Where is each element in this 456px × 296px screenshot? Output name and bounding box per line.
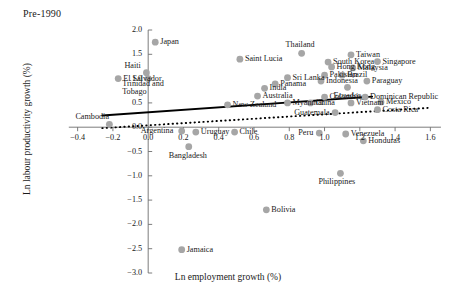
point-label: New Zealand [233,101,277,109]
point-label: Peru [298,129,313,137]
x-tick-label: 1.6 [416,133,444,142]
point-label: China [315,99,335,107]
point-label: Cambodia [75,113,109,121]
y-tick-label: −3.0 [114,268,142,277]
x-tick-label: 0.2 [169,133,197,142]
point-label: Chile [240,128,258,136]
y-tick-label: 1.5 [114,49,142,58]
point-label: Indonesia [326,77,358,85]
point-label: Japan [160,38,179,46]
point-label: Bolivia [271,206,295,214]
point-label: Thailand [286,41,315,49]
point-label: Argentina [141,127,174,135]
y-tick-label: 0.0 [114,122,142,131]
point-label: Philippines [318,178,355,186]
point-label: Haiti [124,62,140,70]
x-tick-label: −0.2 [99,133,127,142]
point-label: Trinidad andTobago [122,80,164,97]
y-tick-label: 0.5 [114,98,142,107]
point-label: Bangladesh [169,152,207,160]
point-label: Jamaica [187,246,213,254]
y-tick-label: 2.0 [114,25,142,34]
point-label: Honduras [368,137,400,145]
point-label: Uruguay [201,128,230,136]
point-label: Guatemala [294,109,329,117]
y-tick-label: −0.5 [114,147,142,156]
point-label: Costa Rica [382,106,418,114]
point-label: Paraguay [372,77,402,85]
y-tick-label: −2.5 [114,244,142,253]
y-tick-label: −1.0 [114,171,142,180]
point-label: Saint Lucia [245,55,283,63]
y-tick-label: −1.5 [114,195,142,204]
plot-area [0,0,456,296]
x-tick-label: 1.0 [311,133,339,142]
scatter-chart: Pre-1990 Ln labour productivity growth (… [0,0,456,296]
x-tick-label: −0.4 [64,133,92,142]
y-tick-label: −2.0 [114,219,142,228]
point-label: Vietnam [356,99,384,107]
